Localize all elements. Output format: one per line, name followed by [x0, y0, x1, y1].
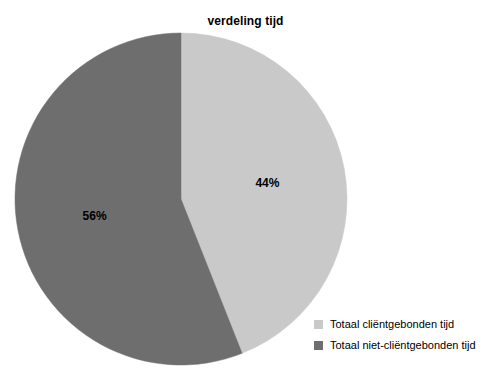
pie-chart-figure: verdeling tijd 44% 56% Totaal cliëntgebo… [0, 0, 493, 386]
chart-legend: Totaal cliëntgebonden tijd Totaal niet-c… [314, 314, 490, 356]
legend-item-totaal-clientgebonden-tijd[interactable]: Totaal cliëntgebonden tijd [314, 314, 490, 334]
legend-item-totaal-niet-clientgebonden-tijd[interactable]: Totaal niet-cliëntgebonden tijd [314, 335, 490, 355]
pie-label-totaal-clientgebonden-tijd: 44% [255, 176, 279, 190]
legend-swatch-icon-totaal-clientgebonden-tijd [314, 320, 323, 329]
pie-label-totaal-niet-clientgebonden-tijd: 56% [83, 209, 107, 223]
pie-slices [15, 33, 347, 365]
legend-label-totaal-niet-clientgebonden-tijd: Totaal niet-cliëntgebonden tijd [330, 339, 476, 352]
legend-swatch-icon-totaal-niet-clientgebonden-tijd [314, 341, 323, 350]
legend-label-totaal-clientgebonden-tijd: Totaal cliëntgebonden tijd [330, 318, 454, 331]
